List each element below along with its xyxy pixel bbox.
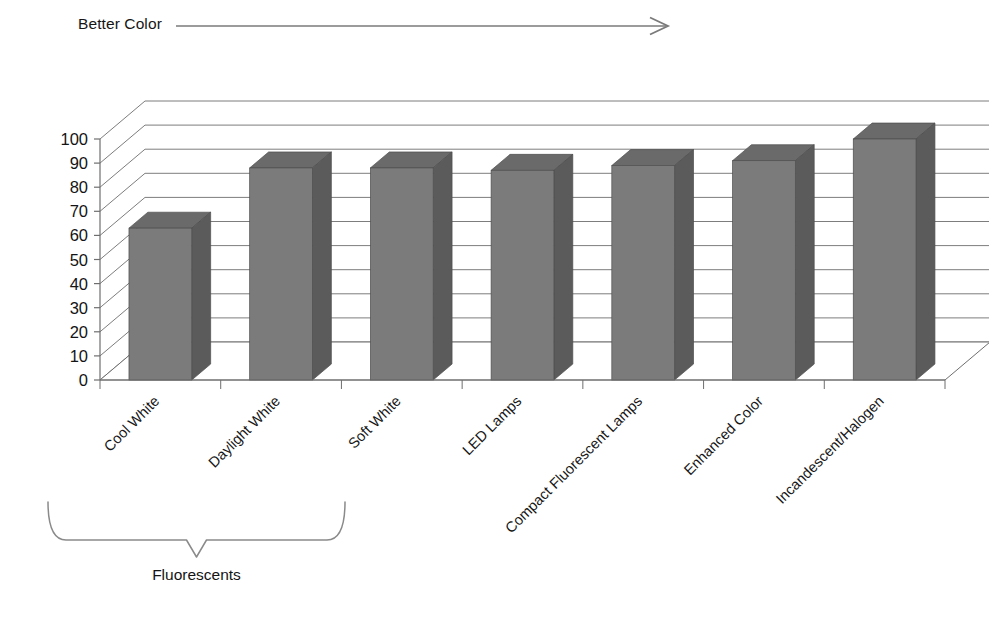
- x-axis-category-labels: Cool WhiteDaylight WhiteSoft WhiteLED La…: [101, 393, 887, 536]
- y-axis-tick-label: 100: [60, 130, 88, 148]
- y-axis-tick-label: 0: [79, 371, 88, 389]
- bar: [733, 145, 815, 380]
- x-axis-category-label: LED Lamps: [459, 393, 524, 458]
- y-axis-tick-label: 20: [70, 323, 88, 341]
- bar: [612, 150, 694, 380]
- chart-canvas: 1009080706050403020100 Cool WhiteDayligh…: [0, 0, 989, 628]
- x-axis-category-label: Daylight White: [205, 393, 283, 471]
- y-axis-tick-labels: 1009080706050403020100: [60, 130, 88, 389]
- fluorescents-group-label: Fluorescents: [77, 566, 317, 584]
- bar: [491, 154, 573, 380]
- fluorescents-brace: [48, 502, 345, 557]
- chart-page: Better Color 1009080706050403020100 Cool…: [0, 0, 989, 628]
- x-axis-category-label: Cool White: [101, 393, 163, 455]
- y-axis-tick-label: 70: [70, 202, 88, 220]
- bar-chart: 1009080706050403020100 Cool WhiteDayligh…: [0, 0, 989, 628]
- y-axis-tick-label: 80: [70, 178, 88, 196]
- bar-series: [129, 123, 935, 380]
- bar: [370, 152, 452, 380]
- y-axis: [94, 139, 100, 380]
- y-axis-tick-label: 60: [70, 226, 88, 244]
- x-axis-category-label: Incandescent/Halogen: [773, 393, 887, 507]
- x-axis-ticks: [100, 380, 945, 389]
- x-axis-category-label: Compact Fluorescent Lamps: [502, 393, 645, 536]
- y-axis-tick-label: 40: [70, 275, 88, 293]
- x-axis-category-label: Soft White: [345, 393, 404, 452]
- y-axis-tick-label: 90: [70, 154, 88, 172]
- y-axis-tick-label: 10: [70, 347, 88, 365]
- bar: [250, 152, 332, 380]
- x-axis-category-label: Enhanced Color: [681, 393, 766, 478]
- bar: [853, 123, 935, 380]
- y-axis-tick-label: 50: [70, 251, 88, 269]
- y-axis-tick-label: 30: [70, 299, 88, 317]
- bar: [129, 212, 211, 380]
